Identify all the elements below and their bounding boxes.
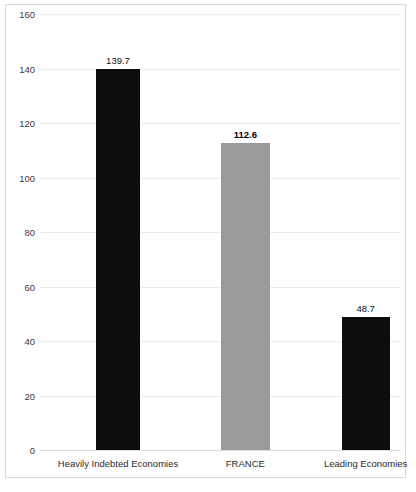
- gridline: [40, 450, 401, 451]
- y-axis-tick-label: 160: [5, 9, 35, 20]
- gridline: [40, 69, 401, 70]
- bar-value-label: 139.7: [78, 55, 158, 66]
- bar: [221, 143, 270, 450]
- bar-value-label: 48.7: [326, 303, 406, 314]
- gridline: [40, 123, 401, 124]
- y-axis-tick-label: 100: [5, 172, 35, 183]
- plot-area: [40, 14, 401, 450]
- y-axis-tick-label: 0: [5, 445, 35, 456]
- y-axis-tick-label: 60: [5, 281, 35, 292]
- y-axis-tick-label: 140: [5, 63, 35, 74]
- y-axis-tick-label: 20: [5, 390, 35, 401]
- bar-value-label: 112.6: [205, 129, 285, 140]
- y-axis-tick-label: 120: [5, 118, 35, 129]
- bar-chart: 020406080100120140160 139.7112.648.7 Hea…: [0, 0, 416, 492]
- y-axis-tick-label: 40: [5, 336, 35, 347]
- gridline: [40, 14, 401, 15]
- bar: [96, 69, 140, 450]
- x-axis-category-label: Leading Economies: [286, 458, 416, 469]
- bar: [342, 317, 390, 450]
- y-axis-tick-label: 80: [5, 227, 35, 238]
